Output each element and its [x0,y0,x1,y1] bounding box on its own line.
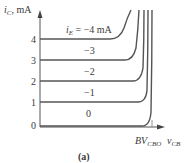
y-tick-3: 3 [31,55,36,66]
y-tick-4: 4 [31,34,36,45]
curve-label-ie-minus-1: −1 [84,87,95,98]
figure-caption: (a) [78,151,90,163]
x-axis-label: vCB [167,135,181,148]
bv-cbo-label: BVCBO [135,135,161,148]
curve-label-ie-minus-2: −2 [84,66,95,77]
y-tick-2: 2 [31,76,36,87]
y-tick-1: 1 [31,97,36,108]
curve-label-ie-minus-4: iE = −4 mA [66,24,113,37]
x-axis-arrow-icon [157,125,165,130]
bjt-breakdown-chart: iC, mA 4 3 2 1 0 iE = −4 mA −3 −2 −1 0 B… [0,0,185,163]
curve-label-ie-minus-3: −3 [84,45,95,56]
y-tick-0: 0 [31,120,36,131]
curve-label-ie-0: 0 [86,108,91,119]
y-axis-arrow-icon [38,10,43,18]
y-axis-label: iC, mA [4,4,32,17]
